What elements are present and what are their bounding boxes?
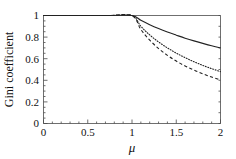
x-tick-label-3: 1.5 bbox=[169, 126, 183, 138]
y-tick-label-3: 0.6 bbox=[25, 53, 39, 65]
y-tick-label-5: 1 bbox=[34, 9, 40, 21]
y-tick-label-1: 0.2 bbox=[25, 96, 39, 108]
gini-coefficient-line-chart: 0 0.5 1 1.5 2 0 0.2 0.4 0.6 0.8 1 Gini c… bbox=[0, 0, 236, 159]
x-tick-label-0: 0 bbox=[41, 126, 47, 138]
y-tick-label-2: 0.4 bbox=[25, 74, 39, 86]
chart-figure: 0 0.5 1 1.5 2 0 0.2 0.4 0.6 0.8 1 Gini c… bbox=[0, 0, 236, 159]
x-tick-label-1: 0.5 bbox=[81, 126, 95, 138]
y-tick-label-4: 0.8 bbox=[25, 31, 39, 43]
y-axis-title: Gini coefficient bbox=[2, 31, 16, 107]
x-tick-label-2: 1 bbox=[129, 126, 135, 138]
x-axis-title: μ bbox=[128, 140, 136, 155]
x-tick-label-4: 2 bbox=[218, 126, 224, 138]
y-tick-label-0: 0 bbox=[34, 117, 40, 129]
